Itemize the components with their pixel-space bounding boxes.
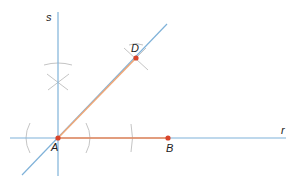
label-point-b: B — [166, 142, 173, 154]
construction-arcs — [26, 44, 148, 154]
label-line-r: r — [281, 124, 286, 136]
label-point-a: A — [50, 141, 58, 153]
angle-construction-diagram: s r A B D — [0, 0, 305, 185]
point-a — [55, 135, 60, 140]
label-line-s: s — [46, 11, 52, 23]
segment-ad — [58, 58, 136, 138]
point-b — [165, 135, 170, 140]
label-point-d: D — [131, 42, 139, 54]
point-d — [133, 55, 138, 60]
